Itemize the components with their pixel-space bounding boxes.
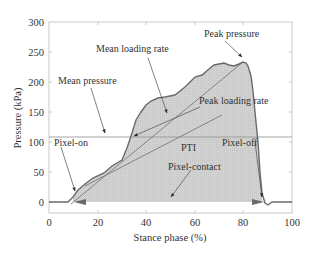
y-tick-labels: 0 50 100 150 200 250 300 [28,17,44,208]
pressure-chart: Peak pressure Mean loading rate Mean pre… [0,0,312,255]
svg-text:100: 100 [28,137,44,148]
svg-text:60: 60 [190,217,201,228]
label-pti: PTI [181,142,196,153]
svg-text:250: 250 [28,47,44,58]
label-mean-loading-rate: Mean loading rate [96,43,169,54]
svg-text:200: 200 [28,77,44,88]
label-peak-loading-rate: Peak loading rate [199,95,269,106]
svg-text:150: 150 [28,107,44,118]
label-pixel-off: Pixel-off [222,137,258,148]
svg-text:80: 80 [238,217,249,228]
label-mean-pressure: Mean pressure [58,75,117,86]
label-peak-pressure: Peak pressure [204,28,260,39]
svg-text:100: 100 [284,217,300,228]
svg-text:0: 0 [39,197,44,208]
y-axis-label: Pressure (kPa) [12,87,24,148]
arrow-peak-pressure [225,41,242,57]
arrow-pixel-on [61,147,75,191]
x-tick-labels: 0 20 40 60 80 100 [46,217,300,228]
x-axis-label: Stance phase (%) [134,232,207,244]
arrow-mean-pressure [91,88,105,133]
svg-text:40: 40 [141,217,152,228]
svg-text:50: 50 [34,167,45,178]
label-pixel-contact: Pixel-contact [168,161,221,172]
label-pixel-on: Pixel-on [54,137,88,148]
svg-text:20: 20 [93,217,104,228]
svg-text:300: 300 [28,17,44,28]
svg-text:0: 0 [46,217,51,228]
